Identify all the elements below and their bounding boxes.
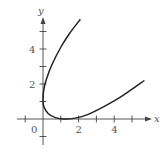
y-tick-label: 4 <box>29 44 35 55</box>
y-tick-label: 2 <box>29 79 35 90</box>
y-axis-label: y <box>37 5 44 16</box>
curve-line <box>43 19 144 119</box>
chart: 2424 x y 0 <box>0 0 163 155</box>
x-axis-label: x <box>154 113 160 124</box>
x-tick-label: 4 <box>111 124 117 135</box>
origin-label: 0 <box>31 124 37 135</box>
y-axis-arrow-icon <box>41 17 46 24</box>
x-tick-label: 2 <box>76 124 82 135</box>
tick-labels: 2424 <box>29 44 118 136</box>
x-axis-arrow-icon <box>145 117 152 122</box>
